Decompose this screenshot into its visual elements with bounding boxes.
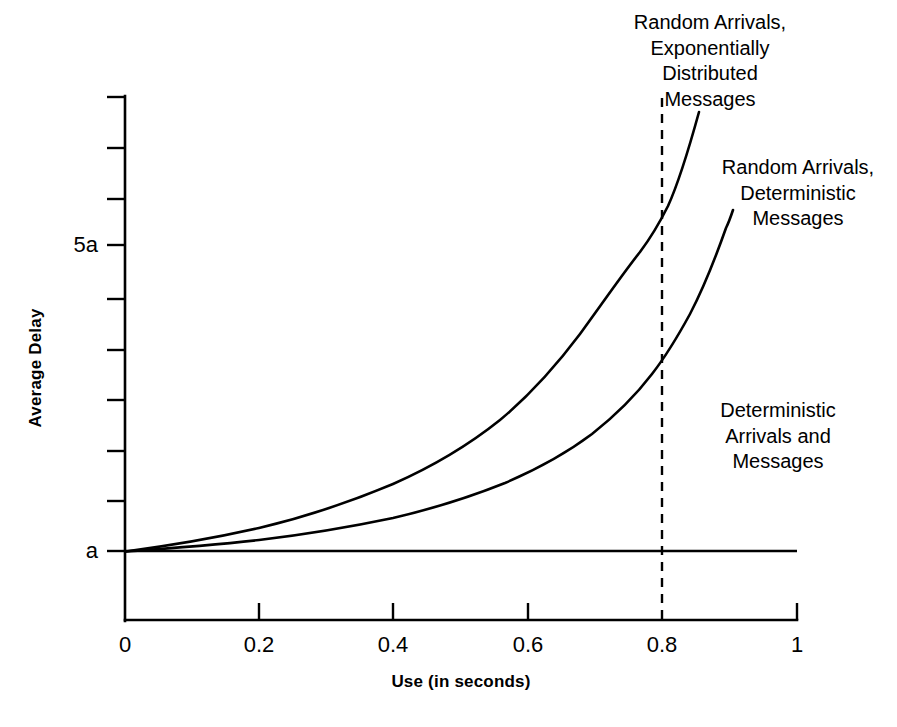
annotation-random-arrivals-deterministic-messages: Random Arrivals, Deterministic Messages: [691, 155, 897, 232]
y-tick-label-5a: 5a: [60, 234, 98, 256]
x-axis-title: Use (in seconds): [391, 672, 530, 692]
y-axis-title: Average Delay: [26, 308, 46, 427]
x-tick-label-0-2: 0.2: [244, 634, 275, 656]
chart-figure: 0 0.2 0.4 0.6 0.8 1 5a a Use (in seconds…: [0, 0, 897, 727]
x-tick-label-1: 1: [791, 634, 803, 656]
series-random-arrivals-deterministic-messages: [126, 210, 734, 552]
y-axis-ticks: [107, 97, 125, 551]
x-tick-label-0-8: 0.8: [647, 634, 678, 656]
series-random-arrivals-exponential-messages: [126, 112, 700, 552]
annotation-deterministic-arrivals-and-messages: Deterministic Arrivals and Messages: [678, 398, 878, 475]
x-tick-label-0-4: 0.4: [378, 634, 409, 656]
annotation-random-arrivals-exponential-messages: Random Arrivals, Exponentially Distribut…: [585, 10, 835, 112]
y-tick-label-a: a: [60, 540, 98, 562]
x-tick-label-0-6: 0.6: [513, 634, 544, 656]
x-axis-ticks: [259, 603, 797, 620]
x-tick-label-0: 0: [119, 634, 131, 656]
